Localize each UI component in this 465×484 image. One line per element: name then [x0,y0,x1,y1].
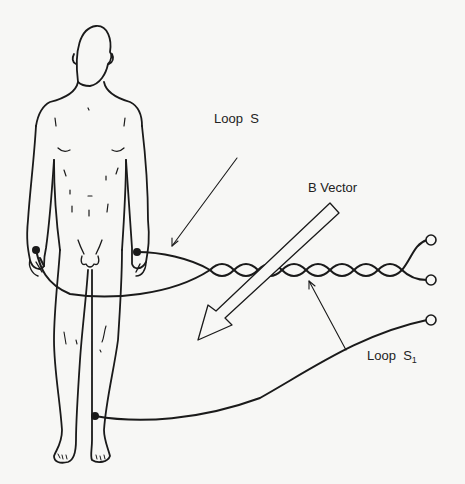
leg-detail [64,326,106,352]
loop-s-label: Loop S [214,112,259,125]
shoulders-outline [36,82,142,126]
chest-detail [55,108,125,151]
b-vector-label: B Vector [308,181,357,194]
diagram-canvas [0,0,465,484]
legs-outline [54,250,122,463]
toes-detail [58,454,105,460]
loop-s1-label: Loop S1 [367,349,417,365]
abdomen-detail [64,168,118,216]
groin-detail [78,240,102,267]
loop-s-leader [172,158,237,246]
b-vector-label-text: B Vector [308,180,357,195]
loop-s1-wire [95,320,427,420]
human-figure [27,26,149,463]
right-arm-outline [126,126,149,268]
loop-s1-leader-arrowhead [309,281,315,289]
terminal-1[interactable] [426,235,436,245]
head-outline [73,26,113,86]
loop-s-label-text: Loop S [214,111,259,126]
left-arm-outline [27,126,54,269]
loop-s1-leader [309,281,346,350]
loop-s-wire [36,250,210,296]
b-vector-arrow-icon [198,203,339,340]
terminal-3[interactable] [426,315,436,325]
loop-s1-subscript: 1 [412,355,417,365]
twisted-pair [210,240,427,280]
loop-s1-label-text: Loop S [367,348,412,363]
terminal-2[interactable] [426,275,436,285]
